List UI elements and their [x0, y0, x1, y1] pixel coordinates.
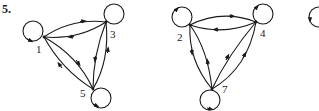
node-label-3: 3: [110, 28, 116, 40]
node-label-1: 1: [36, 43, 42, 55]
node-3: [105, 21, 108, 24]
arrow-2-to-7: [192, 49, 193, 53]
self-loop-node-1: [23, 21, 43, 41]
node-2: [189, 24, 192, 27]
arrow-5-to-1: [59, 64, 62, 68]
node-7: [211, 88, 214, 91]
node-label-2: 2: [177, 31, 183, 43]
self-loop-arrow-7: [207, 108, 211, 109]
edge-5-to-1: [44, 37, 93, 89]
self-loop-node-7: [200, 90, 220, 110]
node-5: [92, 88, 95, 91]
edge-7-to-2: [190, 25, 212, 89]
arrow-3-to-1: [70, 37, 74, 38]
arrow-5-to-3: [108, 49, 109, 53]
arrow-1-to-3: [80, 21, 84, 22]
edge-5-to-3: [93, 22, 107, 89]
graph-right-partial: [309, 7, 319, 27]
edge-4-to-2: [190, 22, 256, 30]
edge-1-to-5: [44, 37, 93, 89]
edge-7-to-4-a: [212, 22, 256, 89]
arrow-7-to-2: [208, 61, 209, 65]
edge-2-to-4: [190, 16, 256, 25]
self-loop-node-3: [104, 4, 124, 24]
edge-3-to-1: [44, 22, 106, 37]
node-4: [255, 21, 258, 24]
graph-left: 1 3 5: [23, 4, 124, 108]
directed-graphs-figure: 5. 1 3 5: [0, 0, 319, 111]
problem-number: 5.: [2, 2, 11, 16]
graph-middle: 2 4 7: [172, 4, 273, 110]
arrow-3-to-5: [95, 56, 96, 60]
edge-7-to-4-b: [212, 22, 256, 89]
node-label-5: 5: [80, 87, 86, 99]
node-label-7: 7: [222, 83, 228, 95]
self-loop-partial: [309, 7, 319, 27]
self-loop-node-2: [172, 7, 192, 27]
node-1: [43, 36, 46, 39]
edge-2-to-7: [190, 25, 212, 89]
node-label-4: 4: [260, 27, 266, 39]
edge-3-to-5: [93, 22, 106, 89]
